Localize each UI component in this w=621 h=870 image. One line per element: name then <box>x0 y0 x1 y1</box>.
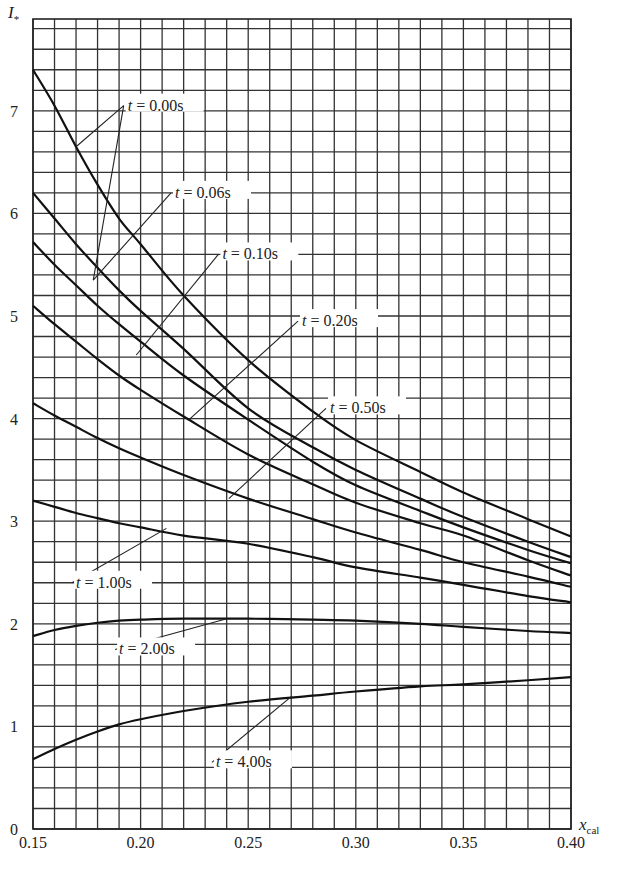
curve-label: t = 0.20s <box>302 312 358 329</box>
curve-0_06s <box>33 193 571 557</box>
x-axis-label: xcal <box>578 815 599 836</box>
x-tick-label: 0.35 <box>449 834 477 851</box>
leader-line <box>136 254 218 355</box>
leader-line <box>76 106 124 147</box>
curve-2_00s <box>33 619 571 637</box>
y-tick-label: 1 <box>10 718 18 735</box>
y-tick-label: 4 <box>10 411 18 428</box>
y-tick-label: 3 <box>10 513 18 530</box>
x-tick-label: 0.40 <box>557 834 585 851</box>
x-tick-label: 0.20 <box>127 834 155 851</box>
curve-0_00s <box>33 70 571 537</box>
y-tick-label: 6 <box>10 205 18 222</box>
x-tick-label: 0.30 <box>342 834 370 851</box>
curve-label: t = 0.50s <box>330 399 386 416</box>
curve-label: t = 0.00s <box>128 97 184 114</box>
curve-label: t = 0.06s <box>175 184 231 201</box>
curve-label: t = 4.00s <box>216 753 272 770</box>
grid-lines <box>33 19 571 829</box>
y-axis-label: I* <box>7 3 19 25</box>
y-axis-subscript: * <box>14 13 20 25</box>
curves <box>33 70 571 759</box>
curve-label: t = 2.00s <box>119 640 175 657</box>
curve-label: t = 0.10s <box>222 245 278 262</box>
leader-line <box>229 408 326 498</box>
curve-label: t = 1.00s <box>76 574 132 591</box>
plot-frame <box>33 19 571 829</box>
x-axis-subscript: cal <box>587 824 600 836</box>
chart: t = 0.00st = 0.06st = 0.10st = 0.20st = … <box>0 0 621 870</box>
y-tick-label: 7 <box>10 103 18 120</box>
y-tick-label: 5 <box>10 308 18 325</box>
y-tick-label: 0 <box>10 821 18 838</box>
x-tick-label: 0.25 <box>234 834 262 851</box>
x-tick-label: 0.15 <box>19 834 47 851</box>
y-tick-label: 2 <box>10 616 18 633</box>
